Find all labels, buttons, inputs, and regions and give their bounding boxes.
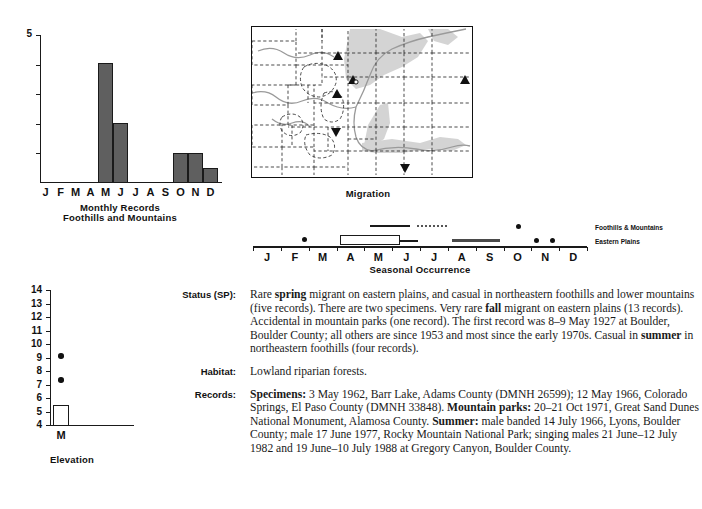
seasonal-tick-0: [253, 247, 254, 251]
seasonal-tick-6: [420, 247, 421, 251]
monthly-y-tick-2: [36, 124, 40, 125]
seasonal-tick-3: [337, 247, 338, 251]
legend-eastern-plains: Eastern Plains: [595, 238, 640, 245]
map-point: [354, 80, 358, 84]
monthly-xlabel-2: M: [68, 186, 83, 198]
elevation-y-label-14: 14: [16, 284, 42, 295]
elevation-y-tick-9: [46, 358, 50, 359]
account-row-records: Records: Specimens: 3 May 1962, Barr Lak…: [160, 388, 702, 456]
seasonal-whisker: [400, 240, 418, 243]
seasonal-tick-9: [504, 247, 505, 251]
map-mountain-counties: [280, 63, 344, 158]
seasonal-box: [340, 235, 400, 245]
monthly-xlabel-1: F: [53, 186, 68, 198]
bar-nov: [188, 153, 203, 183]
monthly-y-tick-5: [36, 35, 40, 36]
elevation-y-tick-6: [46, 398, 50, 399]
elevation-point-low: [58, 377, 64, 383]
elevation-xlabel-m: M: [53, 429, 69, 441]
elevation-title: Elevation: [12, 454, 132, 465]
seasonal-xlabel-3: A: [343, 251, 359, 263]
account-body-status: Rare spring migrant on eastern plains, a…: [250, 288, 702, 356]
colorado-county-map: [251, 26, 473, 178]
account-body-habitat: Lowland riparian forests.: [250, 365, 702, 379]
elevation-y-label-4: 4: [16, 419, 42, 430]
elevation-y-label-13: 13: [16, 298, 42, 309]
seasonal-dotted-segment: [417, 225, 449, 227]
triangle-down-icon: [331, 128, 341, 137]
account-label-status: Status (SP):: [160, 288, 250, 356]
monthly-y-tick-4: [36, 65, 40, 66]
monthly-xlabel-7: A: [143, 186, 158, 198]
seasonal-tick-4: [364, 247, 365, 251]
seasonal-tick-1: [281, 247, 282, 251]
elevation-chart: 14 13 12 11 10 9 8 7 6 5 4 M Elevation: [12, 286, 142, 476]
seasonal-outlier-point: [302, 237, 307, 242]
elevation-y-tick-8: [46, 371, 50, 372]
seasonal-xlabel-11: D: [565, 251, 581, 263]
seasonal-xlabel-7: A: [454, 251, 470, 263]
seasonal-point-nov: [550, 238, 555, 243]
species-account: Status (SP): Rare spring migrant on east…: [160, 288, 702, 465]
monthly-xlabel-3: A: [83, 186, 98, 198]
elevation-y-label-5: 5: [16, 406, 42, 417]
elevation-y-tick-14: [46, 290, 50, 291]
monthly-records-title-line2: Foothills and Mountains: [0, 212, 240, 223]
legend-foothills-mountains: Foothills & Mountains: [595, 224, 663, 231]
triangle-down-icon: [400, 164, 410, 173]
seasonal-occurrence-chart: J F M A M J J A S O N D Seasonal Occurre…: [240, 214, 702, 280]
monthly-y-axis: [40, 35, 41, 183]
seasonal-fall-segment: [452, 239, 500, 242]
elevation-y-tick-4: [46, 425, 50, 426]
seasonal-occurrence-title: Seasonal Occurrence: [253, 264, 587, 275]
triangle-up-icon: [332, 89, 342, 98]
seasonal-xlabel-10: N: [537, 251, 553, 263]
seasonal-xlabel-0: J: [259, 251, 275, 263]
monthly-xlabel-9: O: [173, 186, 188, 198]
seasonal-xlabel-9: O: [510, 251, 526, 263]
elevation-y-label-11: 11: [16, 325, 42, 336]
map-caption: Migration: [243, 188, 493, 199]
seasonal-tick-2: [309, 247, 310, 251]
monthly-records-chart: 5 J F M A M J J A S O N D Monthly Record…: [0, 18, 240, 226]
elevation-y-label-10: 10: [16, 338, 42, 349]
seasonal-xlabel-6: J: [426, 251, 442, 263]
monthly-y-tick-3: [36, 94, 40, 95]
seasonal-point-oct-lower: [534, 238, 539, 243]
monthly-y-axis-top-label: 5: [14, 28, 32, 39]
account-label-habitat: Habitat:: [160, 365, 250, 379]
seasonal-tick-10: [531, 247, 532, 251]
elevation-y-label-8: 8: [16, 365, 42, 376]
seasonal-point-oct-upper: [516, 224, 521, 229]
map-shaded-range: [344, 29, 466, 153]
bar-may: [98, 63, 113, 183]
account-row-habitat: Habitat: Lowland riparian forests.: [160, 365, 702, 379]
monthly-xlabel-11: D: [203, 186, 218, 198]
seasonal-tick-5: [392, 247, 393, 251]
elevation-point-high: [58, 353, 64, 359]
migration-map-panel: Migration: [243, 22, 493, 212]
elevation-bar-mountains: [53, 405, 69, 426]
seasonal-xlabel-1: F: [287, 251, 303, 263]
seasonal-tick-12: [587, 247, 588, 251]
seasonal-xlabel-5: J: [398, 251, 414, 263]
seasonal-solid-segment: [370, 225, 410, 227]
elevation-y-label-7: 7: [16, 379, 42, 390]
seasonal-xlabel-4: M: [370, 251, 386, 263]
bar-dec: [203, 168, 218, 183]
elevation-y-tick-13: [46, 304, 50, 305]
seasonal-tick-11: [559, 247, 560, 251]
triangle-up-icon: [460, 75, 470, 84]
bar-oct: [173, 153, 188, 183]
seasonal-tick-7: [448, 247, 449, 251]
monthly-y-tick-1: [36, 153, 40, 154]
elevation-y-tick-11: [46, 331, 50, 332]
monthly-xlabel-5: J: [113, 186, 128, 198]
account-body-records: Specimens: 3 May 1962, Barr Lake, Adams …: [250, 388, 702, 456]
account-label-records: Records:: [160, 388, 250, 456]
seasonal-xlabel-2: M: [315, 251, 331, 263]
elevation-y-label-9: 9: [16, 352, 42, 363]
elevation-y-axis: [50, 290, 51, 426]
monthly-xlabel-10: N: [188, 186, 203, 198]
monthly-xlabel-4: M: [98, 186, 113, 198]
